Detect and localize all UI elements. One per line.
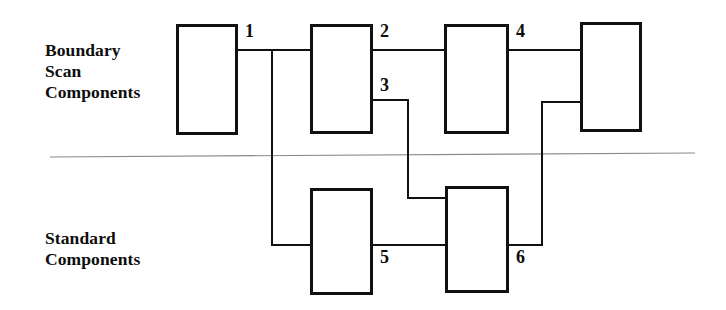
std-box-6 [447, 188, 508, 292]
block-diagram: Boundary Scan Components Standard Compon… [0, 0, 726, 310]
group-divider-line [50, 153, 695, 157]
wire-label-6: 6 [516, 248, 525, 266]
std-box-5 [312, 190, 372, 294]
wire-label-3: 3 [380, 76, 389, 94]
group-label-standard-components: Standard Components [45, 228, 140, 270]
group-wires-layer [238, 50, 580, 245]
bs-box-3 [446, 26, 508, 133]
wire-1 [238, 50, 310, 245]
wire-3 [373, 100, 445, 198]
wire-6 [509, 102, 580, 245]
bs-box-4 [582, 24, 641, 131]
wire-label-4: 4 [516, 22, 525, 40]
wire-label-1: 1 [245, 22, 254, 40]
wire-label-2: 2 [380, 22, 389, 40]
group-divider-layer [50, 153, 695, 157]
bs-box-1 [178, 26, 237, 134]
bs-box-2 [312, 26, 372, 133]
wire-label-5: 5 [380, 248, 389, 266]
group-label-boundary-scan-components: Boundary Scan Components [45, 40, 140, 103]
